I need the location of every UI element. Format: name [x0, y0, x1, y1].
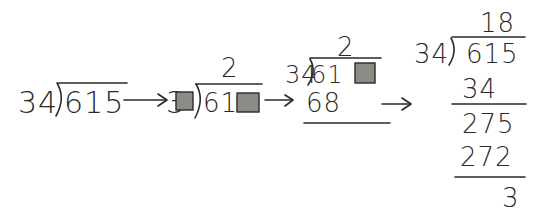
arrow-3: [382, 98, 411, 110]
stage4-final-remainder: 3: [502, 183, 520, 213]
stage-4: 18 34 615 34 275 272 3: [414, 8, 526, 213]
stage4-step-subtract-1: 34: [462, 74, 497, 104]
arrow-1: [124, 94, 167, 106]
stage3-dividend-hidden-box: [355, 63, 375, 83]
stage4-step-subtract-2: 272: [460, 142, 513, 172]
stage4-quotient: 18: [480, 8, 515, 38]
stage2-dividend-hidden-box: [237, 93, 259, 112]
stage1-dividend: 615: [64, 85, 124, 120]
stage2-quotient: 2: [221, 53, 239, 83]
stage-1: 34 615: [18, 83, 127, 120]
stage4-dividend: 615: [466, 39, 519, 69]
stage4-divisor: 34: [414, 39, 449, 69]
stage-2: 2 3 61: [166, 53, 262, 120]
long-division-diagram: 34 615 2 3 61 2 34 61 68: [0, 0, 546, 223]
stage-3: 2 34 61 68: [285, 32, 390, 123]
stage3-product: 68: [306, 88, 341, 118]
stage4-step-remainder-1: 275: [462, 109, 515, 139]
stage2-divisor-hidden-box: [176, 92, 193, 110]
stage4-division-bracket: [449, 38, 454, 65]
stage2-division-bracket: [195, 84, 200, 118]
stage3-dividend-digits: 61: [311, 61, 344, 89]
arrow-2: [265, 95, 293, 106]
stage1-divisor: 34: [18, 85, 58, 120]
stage2-dividend-digits: 61: [203, 88, 238, 118]
